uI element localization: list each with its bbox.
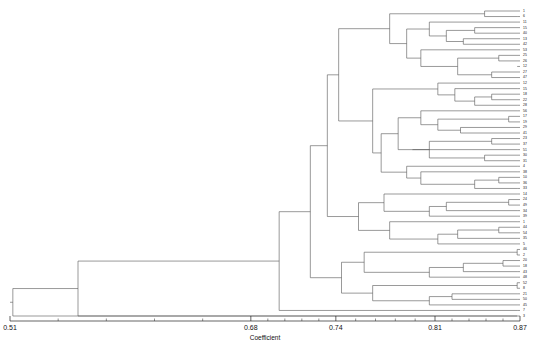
leaf-label: 56 [523,109,527,113]
leaf-label: 27 [523,70,527,74]
leaf-label: 37 [523,142,527,146]
leaf-label: 52 [523,281,527,285]
leaf-label: 6 [523,14,525,18]
leaf-label: 46 [523,247,527,251]
leaf-label: 42 [523,42,527,46]
dendrogram-canvas: 1611154013425325261227471215182228561719… [0,0,538,349]
leaf-label: 10 [523,175,527,179]
leaf-label: 7 [523,308,525,312]
leaf-label: 39 [523,214,527,218]
leaf-label: 20 [523,258,527,262]
leaf-label: 43 [523,270,527,274]
x-axis-tick-label: 0.81 [428,324,442,331]
leaf-label: 24 [523,197,527,201]
leaf-label: 1 [523,220,525,224]
leaf-label: 49 [523,203,527,207]
leaf-label: 33 [523,186,527,190]
leaf-label: 23 [523,136,527,140]
x-axis-tick-label: 0.51 [3,324,17,331]
leaf-label: 15 [523,87,527,91]
leaf-label: 30 [523,153,527,157]
leaf-label: 47 [523,75,527,79]
leaf-label: 26 [523,59,527,63]
x-axis-tick-label: 0.74 [329,324,343,331]
leaf-label: 1 [523,9,525,13]
leaf-label: 5 [523,242,525,246]
dendrogram-plot: 1611154013425325261227471215182228561719… [0,0,538,349]
leaf-label: 34 [523,209,527,213]
x-axis-title: Coefficient [250,334,281,341]
leaf-label: 18 [523,264,527,268]
leaf-label: 29 [523,125,527,129]
leaf-label: 22 [523,98,527,102]
leaf-label: 4 [523,164,525,168]
leaf-label: 14 [523,192,527,196]
x-axis-tick-label: 0.68 [244,324,258,331]
leaf-label: 18 [523,92,527,96]
leaf-label: 15 [523,26,527,30]
leaf-label: 53 [523,48,527,52]
leaf-label: 28 [523,103,527,107]
leaf-label: 13 [523,37,527,41]
leaf-label: 11 [523,20,527,24]
leaf-label: 45 [523,303,527,307]
leaf-label: 25 [523,53,527,57]
leaf-label: 12 [523,81,527,85]
leaf-label: 51 [523,148,527,152]
leaf-label: 54 [523,231,527,235]
leaf-label: 12 [523,64,527,68]
leaf-label: 36 [523,181,527,185]
leaf-label: 8 [523,286,525,290]
leaf-label: 41 [523,131,527,135]
leaf-label: 35 [523,236,527,240]
leaf-label: 17 [523,114,527,118]
leaf-label: 50 [523,297,527,301]
dendrogram-branches [10,11,520,316]
leaf-label: 21 [523,292,527,296]
leaf-label: 38 [523,170,527,174]
leaf-label: 2 [523,253,525,257]
leaf-label: 48 [523,275,527,279]
dendrogram-leaf-labels: 1611154013425325261227471215182228561719… [523,9,527,318]
x-axis-tick-label: 0.87 [513,324,527,331]
x-axis: 0.510.680.740.810.87Coefficient [3,316,527,341]
leaf-label: 44 [523,225,527,229]
leaf-label: 40 [523,31,527,35]
leaf-label: 3 [523,314,525,318]
leaf-label: 19 [523,120,527,124]
leaf-label: 31 [523,159,527,163]
